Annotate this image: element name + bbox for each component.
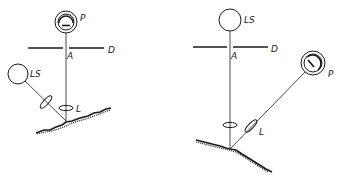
ground-surface xyxy=(36,108,111,134)
lens-label: L xyxy=(76,104,81,114)
diaphragm-label: D xyxy=(271,44,278,54)
right-figure: LS D A P L xyxy=(193,9,334,172)
light-source-label: LS xyxy=(30,69,41,79)
viewing-ray xyxy=(230,72,305,149)
diaphragm-label: D xyxy=(108,45,115,55)
lens-label: L xyxy=(259,127,264,137)
photometer-label: P xyxy=(328,69,334,79)
photometer-label: P xyxy=(80,13,86,23)
photometer-icon xyxy=(301,51,325,75)
photometer-icon xyxy=(55,11,77,33)
viewing-lens-icon xyxy=(244,118,259,133)
aperture-label: A xyxy=(230,51,237,61)
illumination-ray xyxy=(25,81,66,121)
diagram-canvas: P D A LS L LS xyxy=(0,0,339,180)
left-figure: P D A LS L xyxy=(8,11,115,134)
light-source-label: LS xyxy=(244,15,255,25)
light-source-icon xyxy=(219,9,241,31)
aperture-label: A xyxy=(66,51,73,61)
